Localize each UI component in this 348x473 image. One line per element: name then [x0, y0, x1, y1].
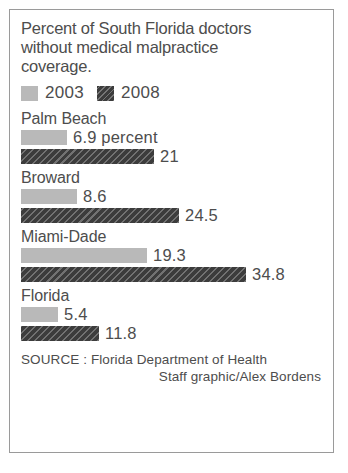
chart-title-line-2: without medical malpractice — [21, 38, 323, 57]
source-line-2: Staff graphic/Alex Bordens — [21, 368, 323, 385]
bar-value-miami-dade-2008: 34.8 — [252, 265, 285, 284]
bar-miami-dade-2003 — [21, 248, 147, 263]
chart-source: SOURCE : Florida Department of Health St… — [21, 351, 323, 385]
chart-legend: 2003 2008 — [21, 83, 323, 103]
bar-row-palm-beach-2003: 6.9 percent — [21, 129, 323, 146]
bar-miami-dade-2008 — [21, 267, 246, 282]
bar-row-miami-dade-2003: 19.3 — [21, 247, 323, 264]
bar-florida-2008 — [21, 326, 99, 341]
group-label-miami-dade: Miami-Dade — [21, 227, 323, 246]
bar-row-broward-2003: 8.6 — [21, 188, 323, 205]
bar-row-palm-beach-2008: 21 — [21, 148, 323, 165]
bar-row-florida-2008: 11.8 — [21, 325, 323, 342]
bar-row-florida-2003: 5.4 — [21, 306, 323, 323]
bar-value-palm-beach-2003: 6.9 percent — [73, 128, 158, 147]
chart-title: Percent of South Florida doctors without… — [21, 19, 323, 76]
chart-title-line-3: coverage. — [21, 57, 323, 76]
bar-value-broward-2008: 24.5 — [185, 206, 218, 225]
legend-item-2008: 2008 — [97, 83, 160, 103]
bar-group-broward: Broward 8.6 24.5 — [21, 168, 323, 224]
bar-value-palm-beach-2008: 21 — [160, 147, 179, 166]
light-gray-swatch-icon — [21, 86, 38, 101]
bar-group-miami-dade: Miami-Dade 19.3 34.8 — [21, 227, 323, 283]
bar-value-florida-2008: 11.8 — [105, 324, 137, 343]
group-label-palm-beach: Palm Beach — [21, 109, 323, 128]
chart-title-line-1: Percent of South Florida doctors — [21, 19, 323, 38]
bar-palm-beach-2008 — [21, 149, 154, 164]
bar-broward-2008 — [21, 208, 179, 223]
legend-label-2003: 2003 — [45, 83, 84, 103]
bar-value-miami-dade-2003: 19.3 — [153, 246, 186, 265]
dark-hatched-swatch-icon — [97, 86, 114, 101]
bar-group-florida: Florida 5.4 11.8 — [21, 286, 323, 342]
bar-broward-2003 — [21, 189, 77, 204]
chart-container: Percent of South Florida doctors without… — [9, 9, 334, 453]
bar-value-broward-2003: 8.6 — [83, 187, 107, 206]
legend-item-2003: 2003 — [21, 83, 84, 103]
bar-group-palm-beach: Palm Beach 6.9 percent 21 — [21, 109, 323, 165]
group-label-broward: Broward — [21, 168, 323, 187]
bar-value-florida-2003: 5.4 — [64, 305, 88, 324]
legend-label-2008: 2008 — [121, 83, 160, 103]
bar-florida-2003 — [21, 307, 58, 322]
bar-row-miami-dade-2008: 34.8 — [21, 266, 323, 283]
bar-row-broward-2008: 24.5 — [21, 207, 323, 224]
bar-palm-beach-2003 — [21, 130, 67, 145]
source-line-1: SOURCE : Florida Department of Health — [21, 351, 323, 368]
group-label-florida: Florida — [21, 286, 323, 305]
